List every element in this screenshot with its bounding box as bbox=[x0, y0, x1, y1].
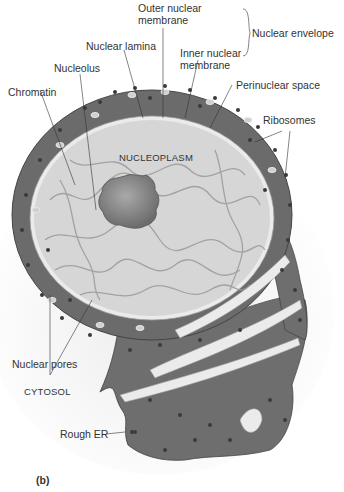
nucleoplasm-label: NUCLEOPLASM bbox=[119, 152, 193, 164]
nuclear-pores-label: Nuclear pores bbox=[12, 358, 77, 370]
nuclear-envelope-label: Nuclear envelope bbox=[252, 27, 334, 39]
chromatin-label: Chromatin bbox=[8, 86, 56, 98]
nuclear-lamina-label: Nuclear lamina bbox=[86, 40, 156, 52]
panel-label: (b) bbox=[36, 474, 49, 486]
perinuclear-space-label: Perinuclear space bbox=[236, 79, 320, 91]
ribosomes-label: Ribosomes bbox=[263, 114, 316, 126]
outer-nuclear-membrane-label: Outer nuclear bbox=[138, 2, 202, 14]
nucleolus-label: Nucleolus bbox=[54, 62, 100, 74]
cytosol-label: CYTOSOL bbox=[24, 386, 71, 398]
nucleolus bbox=[99, 175, 159, 229]
inner-nuclear-membrane-label: Inner nuclear bbox=[180, 47, 241, 59]
inner-nuclear-membrane-label-2: membrane bbox=[180, 59, 230, 71]
rough-er-label: Rough ER bbox=[60, 428, 108, 440]
nucleus-diagram bbox=[0, 0, 344, 492]
outer-nuclear-membrane-label-2: membrane bbox=[138, 14, 188, 26]
